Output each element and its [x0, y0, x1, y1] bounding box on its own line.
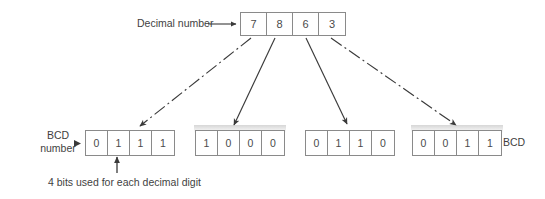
bcd-right-label: BCD — [503, 136, 525, 149]
bcd-bit-cell: 1 — [196, 131, 218, 155]
bcd-nibble-group: 0 1 1 1 — [85, 130, 175, 156]
bcd-bit-cell: 1 — [479, 131, 501, 155]
bcd-bit-cell: 1 — [350, 131, 372, 155]
bcd-nibble-group: 0 0 1 1 — [412, 130, 502, 156]
bcd-bit-cell: 0 — [240, 131, 262, 155]
bcd-bit-cell: 0 — [86, 131, 108, 155]
bcd-bit-cell: 0 — [372, 131, 394, 155]
decimal-digit-cell: 7 — [241, 13, 267, 35]
bcd-number-label: BCD number — [33, 129, 83, 155]
bcd-bit-cell: 0 — [306, 131, 328, 155]
decimal-digit-cell: 3 — [319, 13, 345, 35]
decimal-digit-cell: 8 — [267, 13, 293, 35]
caption-text: 4 bits used for each decimal digit — [48, 176, 201, 189]
connector-3-icon — [331, 38, 456, 125]
bcd-bit-cell: 0 — [435, 131, 457, 155]
bcd-bit-cell: 1 — [457, 131, 479, 155]
connector-7-icon — [140, 38, 251, 126]
bcd-nibble-group: 0 1 1 0 — [305, 130, 395, 156]
bcd-conversion-diagram: Decimal number 7 8 6 3 BCD number 0 1 1 … — [0, 0, 545, 199]
bcd-bit-cell: 0 — [413, 131, 435, 155]
decimal-number-row: 7 8 6 3 — [240, 12, 346, 36]
connector-6-icon — [306, 38, 347, 124]
bcd-bit-cell: 0 — [262, 131, 284, 155]
bcd-bit-cell: 0 — [218, 131, 240, 155]
decimal-number-label: Decimal number — [137, 17, 213, 30]
connector-8-icon — [234, 38, 275, 125]
bcd-nibble-group: 1 0 0 0 — [195, 130, 285, 156]
bcd-bit-cell: 1 — [328, 131, 350, 155]
decimal-digit-cell: 6 — [293, 13, 319, 35]
bcd-bit-cell: 1 — [130, 131, 152, 155]
bcd-bit-cell: 1 — [152, 131, 174, 155]
bcd-bit-cell: 1 — [108, 131, 130, 155]
